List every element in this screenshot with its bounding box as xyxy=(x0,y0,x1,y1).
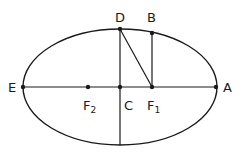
label-b: B xyxy=(147,10,156,25)
label-c: C xyxy=(124,98,133,113)
label-f2: F2 xyxy=(83,98,96,115)
ellipse-diagram: E A D B C F2 F1 xyxy=(0,0,242,152)
point-f1 xyxy=(150,85,154,89)
point-c xyxy=(118,85,122,89)
label-a: A xyxy=(223,80,232,95)
label-d: D xyxy=(115,10,125,25)
point-a xyxy=(214,85,218,89)
point-b xyxy=(150,31,154,35)
label-f1: F1 xyxy=(147,98,160,115)
label-e: E xyxy=(8,80,16,95)
segment-d-f1 xyxy=(120,29,152,87)
point-d xyxy=(118,27,122,31)
point-f2 xyxy=(86,85,90,89)
point-e xyxy=(21,85,25,89)
